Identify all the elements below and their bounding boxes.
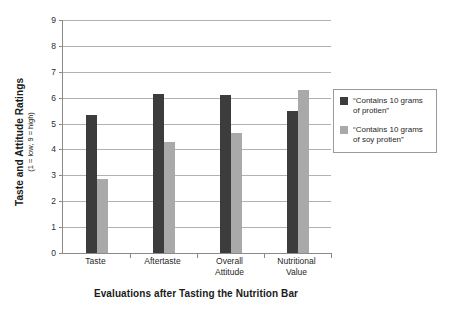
plot-area: 0123456789: [62, 20, 331, 254]
x-axis-category-label-line: Aftertaste: [129, 256, 196, 267]
bar: [164, 142, 175, 253]
bar-pair: [153, 20, 175, 253]
legend-label-line: “Contains 10 grams: [353, 125, 423, 135]
y-axis-title-main: Taste and Attitude Ratings: [14, 78, 26, 206]
bar: [86, 115, 97, 254]
bar-group: [197, 20, 264, 253]
bar-chart: Taste and Attitude Ratings (1 = low, 9 =…: [0, 0, 459, 309]
y-axis-title-subtitle: (1 = low, 9 = high): [26, 78, 36, 206]
bar: [220, 95, 231, 253]
bar: [287, 111, 298, 253]
bar: [97, 179, 108, 253]
legend-label: “Contains 10 gramsof soy protien”: [353, 125, 423, 145]
bar: [153, 94, 164, 253]
x-axis-category-label-line: Overall: [196, 256, 263, 267]
x-axis-tick: [331, 253, 332, 258]
bar-pair: [220, 20, 242, 253]
bar: [298, 90, 309, 253]
y-axis-tick-label: 2: [51, 196, 56, 206]
bar: [231, 133, 242, 253]
x-axis-category-label: Taste: [62, 256, 129, 278]
bar-groups: [63, 20, 331, 253]
y-axis-tick-label: 6: [51, 93, 56, 103]
x-axis-category-label: NutritionalValue: [263, 256, 330, 278]
y-axis-tick: [59, 253, 63, 254]
legend-label: “Contains 10 gramsof protien”: [353, 96, 423, 116]
y-axis-tick-label: 8: [51, 41, 56, 51]
legend-swatch: [340, 126, 348, 134]
legend-item: “Contains 10 gramsof protien”: [340, 96, 431, 116]
bar-group: [264, 20, 331, 253]
legend-swatch: [340, 97, 348, 105]
y-axis-tick-label: 0: [51, 248, 56, 258]
y-axis-tick-label: 1: [51, 222, 56, 232]
legend-label-line: of protien”: [353, 106, 423, 116]
x-axis-category-label-line: Nutritional: [263, 256, 330, 267]
x-axis-tick-labels: TasteAftertasteOverallAttitudeNutritiona…: [62, 256, 330, 278]
legend: “Contains 10 gramsof protien”“Contains 1…: [333, 89, 437, 153]
x-axis-title: Evaluations after Tasting the Nutrition …: [62, 288, 330, 299]
x-axis-category-label-line: Value: [263, 267, 330, 278]
x-axis-category-label-line: Taste: [62, 256, 129, 267]
y-axis-title: Taste and Attitude Ratings (1 = low, 9 =…: [8, 28, 42, 256]
bar-pair: [86, 20, 108, 253]
y-axis-tick-label: 7: [51, 67, 56, 77]
x-axis-category-label: OverallAttitude: [196, 256, 263, 278]
legend-item: “Contains 10 gramsof soy protien”: [340, 125, 431, 145]
y-axis-tick-label: 4: [51, 144, 56, 154]
bar-group: [63, 20, 130, 253]
x-axis-category-label: Aftertaste: [129, 256, 196, 278]
legend-label-line: of soy protien”: [353, 135, 423, 145]
x-axis-category-label-line: Attitude: [196, 267, 263, 278]
bar-group: [130, 20, 197, 253]
bar-pair: [287, 20, 309, 253]
y-axis-tick-label: 5: [51, 119, 56, 129]
legend-label-line: “Contains 10 grams: [353, 96, 423, 106]
y-axis-tick-label: 9: [51, 15, 56, 25]
y-axis-tick-label: 3: [51, 170, 56, 180]
